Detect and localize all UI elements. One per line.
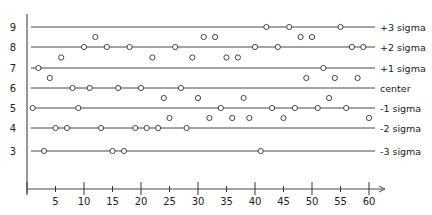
data-point [87,85,92,90]
y-tick-label: 3 [10,146,16,157]
x-tick-label: 50 [306,196,319,207]
data-point [361,44,366,49]
x-tick-label: 15 [106,196,119,207]
data-point [241,95,246,100]
x-tick-label: 60 [363,196,376,207]
data-point [287,24,292,29]
y-tick-label: 4 [10,123,16,134]
data-point [138,85,143,90]
data-points [30,24,372,153]
data-point [355,75,360,80]
data-point [110,148,115,153]
data-point [338,24,343,29]
data-point [127,44,132,49]
y-tick-label: 7 [10,63,16,74]
data-point [64,125,69,130]
x-tick-label: 45 [277,196,290,207]
data-point [315,105,320,110]
data-point [173,44,178,49]
data-point [59,55,64,60]
data-point [230,115,235,120]
x-tick-label: 5 [52,196,58,207]
data-point [344,105,349,110]
data-point [104,44,109,49]
y-tick-label: 9 [10,22,16,33]
data-point [332,75,337,80]
data-point [327,95,332,100]
data-point [93,34,98,39]
data-point [184,125,189,130]
y-tick-label: 6 [10,83,16,94]
data-point [190,55,195,60]
x-tick-label: 20 [135,196,148,207]
data-point [167,115,172,120]
data-point [47,75,52,80]
y-axis: 3456789 [10,14,27,193]
data-point [161,95,166,100]
data-point [150,55,155,60]
data-point [36,65,41,70]
control-line-label: +3 sigma [380,22,426,33]
x-tick-label: 10 [78,196,91,207]
control-line-label: -2 sigma [380,123,421,134]
control-chart: 3456789 +3 sigma+2 sigma+1 sigmacenter-1… [0,0,432,215]
data-point [235,55,240,60]
data-point [213,34,218,39]
data-point [144,125,149,130]
x-axis: 51015202530354045505560 [27,182,385,207]
data-point [218,105,223,110]
x-tick-label: 25 [163,196,176,207]
x-tick-label: 55 [334,196,347,207]
data-point [99,125,104,130]
control-line-label: -1 sigma [380,103,421,114]
data-point [321,65,326,70]
x-tick-label: 30 [192,196,205,207]
control-line-label: +2 sigma [380,42,426,53]
y-tick-label: 5 [10,103,16,114]
data-point [292,105,297,110]
data-point [30,105,35,110]
data-point [70,85,75,90]
data-point [224,55,229,60]
data-point [116,85,121,90]
data-point [275,44,280,49]
data-point [258,148,263,153]
data-point [201,34,206,39]
data-point [281,115,286,120]
control-line-label: -3 sigma [380,146,421,157]
control-line-label: +1 sigma [380,63,426,74]
data-point [309,34,314,39]
data-point [366,115,371,120]
data-point [349,44,354,49]
data-point [76,105,81,110]
control-line-label: center [380,83,411,94]
data-point [81,44,86,49]
data-point [252,44,257,49]
data-point [133,125,138,130]
data-point [298,34,303,39]
data-point [247,115,252,120]
data-point [207,115,212,120]
y-tick-label: 8 [10,42,16,53]
data-point [304,75,309,80]
data-point [156,125,161,130]
data-point [121,148,126,153]
x-tick-label: 35 [220,196,233,207]
data-point [270,105,275,110]
data-point [42,148,47,153]
data-point [195,95,200,100]
data-point [178,85,183,90]
data-point [264,24,269,29]
data-point [53,125,58,130]
x-tick-label: 40 [249,196,262,207]
